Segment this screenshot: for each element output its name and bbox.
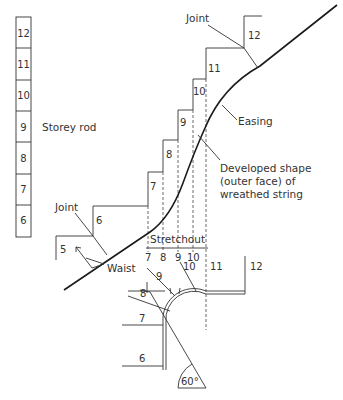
- riser-5: 5: [60, 244, 66, 255]
- plan-step-7: 7: [139, 313, 145, 324]
- riser-11: 11: [208, 63, 221, 74]
- stretchout-label: Stretchout: [150, 233, 205, 245]
- joint-lower-line: [93, 236, 107, 255]
- developed-string-curve: [64, 5, 337, 290]
- projection-lines: [148, 79, 206, 330]
- waist-label: Waist: [107, 262, 136, 274]
- angle-label: 60°: [181, 376, 199, 387]
- riser-7: 7: [150, 181, 156, 192]
- rod-division-10: 10: [17, 90, 30, 101]
- stretchout: Stretchout 7 8 9 10: [145, 233, 208, 263]
- developed-shape-label-2: (outer face) of: [220, 175, 296, 187]
- plan-step-11: 11: [210, 261, 223, 272]
- joint-upper-line: [244, 48, 258, 68]
- stretchout-tick-8: 8: [160, 252, 166, 263]
- developed-shape-label-1: Developed shape: [220, 162, 311, 174]
- rod-division-12: 12: [17, 28, 30, 39]
- riser-6: 6: [96, 215, 102, 226]
- joint-upper-leader: [208, 25, 244, 48]
- stretchout-tick-7: 7: [145, 252, 151, 263]
- stretchout-tick-9: 9: [175, 252, 181, 263]
- easing-leader: [222, 105, 237, 120]
- developed-shape-leader: [198, 135, 220, 160]
- plan-step-12: 12: [250, 261, 263, 272]
- developed-shape-label-3: wreathed string: [220, 188, 303, 200]
- rod-division-7: 7: [20, 184, 26, 195]
- joint-upper-label: Joint: [185, 12, 209, 24]
- plan-step-6: 6: [139, 353, 145, 364]
- riser-10: 10: [193, 86, 206, 97]
- plan-step-8: 8: [140, 288, 146, 299]
- rod-division-9: 9: [20, 122, 26, 133]
- riser-8: 8: [166, 149, 172, 160]
- riser-9: 9: [180, 117, 186, 128]
- joint-lower-label: Joint: [54, 201, 78, 213]
- easing-label: Easing: [238, 115, 273, 127]
- riser-12: 12: [248, 30, 261, 41]
- rod-division-8: 8: [20, 153, 26, 164]
- storey-rod: 12 11 10 9 8 7 6: [16, 17, 31, 237]
- plan-step-9: 9: [156, 271, 162, 282]
- plan-step-10: 10: [183, 261, 196, 272]
- waist-indicator: Waist: [76, 247, 136, 274]
- rod-division-11: 11: [17, 59, 30, 70]
- storey-rod-label: Storey rod: [42, 121, 96, 133]
- joint-lower-leader: [75, 213, 93, 236]
- rod-division-6: 6: [20, 215, 26, 226]
- wreathed-string-diagram: 12 11 10 9 8 7 6 Storey rod 5 6 7 8 9 10…: [0, 0, 343, 400]
- plan-view: 12 11 10 9 8 7 6 60°: [122, 256, 263, 388]
